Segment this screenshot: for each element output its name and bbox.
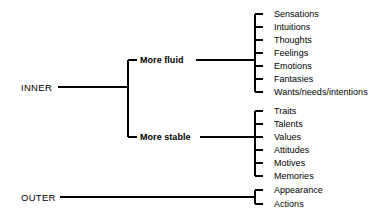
root-label-outer: OUTER [21,193,56,203]
leaf-label-more-stable-5: Memories [274,172,314,181]
leaf-label-more-fluid-5: Fantasies [274,75,313,84]
leaf-label-more-stable-1: Talents [274,120,303,129]
leaf-label-more-fluid-0: Sensations [274,10,319,19]
tree-connector-lines [0,0,390,222]
leaf-label-more-fluid-3: Feelings [274,49,308,58]
leaf-label-more-fluid-1: Intuitions [274,23,310,32]
branch-label-more-stable: More stable [140,133,191,142]
leaf-label-outer-direct-1: Actions [274,200,304,209]
leaf-label-more-fluid-4: Emotions [274,62,312,71]
leaf-label-more-stable-4: Motives [274,159,305,168]
leaf-label-more-fluid-6: Wants/needs/intentions [274,88,368,97]
leaf-label-more-fluid-2: Thoughts [274,36,312,45]
tree-diagram: INNERMore fluidSensationsIntuitionsThoug… [0,0,390,222]
leaf-label-more-stable-0: Traits [274,107,296,116]
leaf-label-more-stable-3: Attitudes [274,146,309,155]
leaf-label-more-stable-2: Values [274,133,301,142]
root-label-inner: INNER [21,83,52,93]
branch-label-more-fluid: More fluid [140,56,184,65]
leaf-label-outer-direct-0: Appearance [274,186,323,195]
